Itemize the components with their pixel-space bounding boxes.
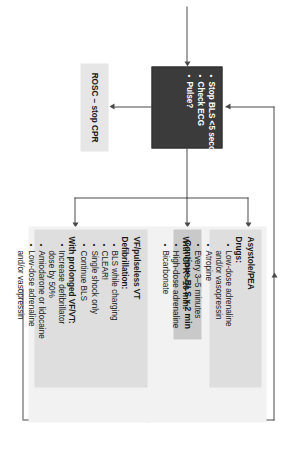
list-item: Every 3–5 minutes xyxy=(191,244,201,380)
panel-asystole-pea[interactable]: Asystole/PEA Drugs: Low-dose adrenaline … xyxy=(209,229,261,387)
asystole-drug-list: Low-dose adrenaline and/or vasopressin A… xyxy=(191,236,232,380)
connector-to-continue-bls xyxy=(186,197,187,224)
list-item: High-dose adrenaline xyxy=(169,244,179,380)
list-item: Atropine xyxy=(201,244,211,380)
vf-prolonged-1: Amiodarone or lidocaine xyxy=(36,250,45,338)
asystole-drug-2: Every 3–5 minutes xyxy=(192,250,201,318)
vf-defib-3: Continue BLS xyxy=(78,250,87,301)
decision-item-check-ecg: Check ECG xyxy=(194,74,205,141)
vf-defib-0: BLS while charging xyxy=(109,250,118,320)
vf-defib-2: Single shock only xyxy=(89,250,98,314)
list-item: CLEAR! xyxy=(98,244,108,380)
panel-vf-pulseless-vt[interactable]: VF/pulseless VT Defibrillation: BLS whil… xyxy=(34,229,147,387)
asystole-drug-0: Low-dose adrenaline xyxy=(223,250,232,326)
asystole-cpr-list: High-dose adrenaline Bicarbonate xyxy=(159,236,179,380)
vf-defib-1: CLEAR! xyxy=(99,250,108,280)
decision-item-stop-bls: Stop BLS <5 seconds! xyxy=(205,74,216,141)
list-item: Bicarbonate xyxy=(159,244,169,380)
asystole-title: Asystole/PEA xyxy=(244,236,255,380)
list-item: Single shock only xyxy=(87,244,97,380)
vf-title: VF/pulseless VT xyxy=(130,236,141,380)
arrowhead-inbound xyxy=(184,61,190,66)
arrowhead-to-rosc xyxy=(109,103,114,109)
vf-prolonged-2: Low-dose adrenaline xyxy=(26,250,35,326)
list-item: Low-dose adrenaline and/or vasopressin xyxy=(212,244,232,380)
vf-prolonged-heading: With prolonged VF/VT: xyxy=(65,236,76,380)
terminal-box-rosc[interactable]: ROSC – stop CPR xyxy=(80,63,108,151)
decision-box-stop-bls[interactable]: Stop BLS <5 seconds! Check ECG Pulse? xyxy=(151,66,222,148)
list-item: Continue BLS xyxy=(77,244,87,380)
decision-box-list: Stop BLS <5 seconds! Check ECG Pulse? xyxy=(178,67,221,147)
connector-to-vf xyxy=(74,197,75,224)
list-item: BLS while charging xyxy=(108,244,118,380)
arrowhead-loop-into-decision xyxy=(225,103,230,109)
vf-defib-heading: Defibrillation: xyxy=(118,236,129,380)
asystole-cpr-heading: With CPR >10 min: xyxy=(179,236,190,380)
vf-prolonged-2-cont: and/or vasopressin xyxy=(14,250,24,380)
figure-canvas: Stop BLS <5 seconds! Check ECG Pulse? RO… xyxy=(0,0,294,457)
flowchart-stage: Stop BLS <5 seconds! Check ECG Pulse? RO… xyxy=(0,0,294,457)
asystole-cpr-0: High-dose adrenaline xyxy=(170,250,179,328)
vf-prolonged-0: Increase defibrillator xyxy=(56,250,65,324)
list-item: Amiodarone or lidocaine xyxy=(35,244,45,380)
vf-prolonged-list: Increase defibrillator dose by 50% Amiod… xyxy=(14,236,65,380)
connector-inbound xyxy=(186,6,187,62)
asystole-drugs-heading: Drugs: xyxy=(232,236,243,380)
asystole-drug-0-cont: and/or vasopressin xyxy=(212,250,222,380)
connector-trunk xyxy=(74,197,248,198)
asystole-drug-1: Atropine xyxy=(203,250,212,281)
connector-to-rosc xyxy=(111,106,151,107)
vf-defib-list: BLS while charging CLEAR! Single shock o… xyxy=(77,236,118,380)
list-item: Increase defibrillator dose by 50% xyxy=(45,244,65,380)
connector-loop-top xyxy=(273,106,274,420)
connector-decision-right xyxy=(186,148,187,198)
vf-prolonged-0-cont: dose by 50% xyxy=(45,250,55,380)
connector-to-asystole xyxy=(247,197,248,224)
list-item: Low-dose adrenaline and/or vasopressin xyxy=(14,244,34,380)
arrowhead-loop-top xyxy=(271,272,277,277)
rosc-label: ROSC – stop CPR xyxy=(90,72,99,142)
connector-loop-left xyxy=(225,106,274,107)
decision-item-pulse: Pulse? xyxy=(183,74,194,141)
asystole-cpr-1: Bicarbonate xyxy=(160,250,169,294)
